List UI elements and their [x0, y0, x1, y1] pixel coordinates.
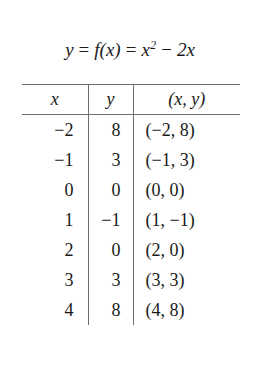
cell-x: −2: [22, 115, 88, 146]
table-header-row: x y (x, y): [22, 84, 240, 115]
value-table: x y (x, y) −2 8 (−2, 8) −1 3 (−1, 3) 0: [22, 84, 240, 325]
cell-y: 8: [88, 295, 133, 325]
cell-y: 3: [88, 145, 133, 175]
table-row: 3 3 (3, 3): [22, 265, 240, 295]
cell-x: 4: [22, 295, 88, 325]
equation-term-exponent: 2: [150, 39, 156, 52]
function-equation: y=f(x)=x2−2x: [0, 40, 260, 59]
table-of-values: x y (x, y) −2 8 (−2, 8) −1 3 (−1, 3) 0: [22, 84, 240, 325]
cell-xy: (3, 3): [133, 265, 240, 295]
cell-x: 0: [22, 175, 88, 205]
equation-operator: −: [161, 39, 172, 60]
cell-xy: (−1, 3): [133, 145, 240, 175]
cell-x: 1: [22, 205, 88, 235]
cell-x: 2: [22, 235, 88, 265]
table-top-rule: [22, 84, 240, 85]
table-row: −2 8 (−2, 8): [22, 115, 240, 146]
table-header: x y (x, y): [22, 84, 240, 115]
cell-xy: (0, 0): [133, 175, 240, 205]
cell-y: 3: [88, 265, 133, 295]
table-row: −1 3 (−1, 3): [22, 145, 240, 175]
cell-xy: (4, 8): [133, 295, 240, 325]
equation-equals-second: =: [126, 39, 137, 60]
equation-second-term: 2x: [177, 39, 195, 60]
equation-equals-first: =: [79, 39, 90, 60]
equation-lhs: y: [65, 39, 73, 60]
document-page: y=f(x)=x2−2x x y (x, y) −2 8 (−2, 8): [0, 0, 260, 374]
table-body: −2 8 (−2, 8) −1 3 (−1, 3) 0 0 (0, 0) 1 −…: [22, 115, 240, 326]
cell-x: 3: [22, 265, 88, 295]
table-row: 1 −1 (1, −1): [22, 205, 240, 235]
column-header-y: y: [88, 84, 133, 115]
cell-xy: (2, 0): [133, 235, 240, 265]
cell-y: 0: [88, 235, 133, 265]
equation-term-base: x: [141, 39, 149, 60]
cell-x: −1: [22, 145, 88, 175]
cell-xy: (−2, 8): [133, 115, 240, 146]
table-row: 2 0 (2, 0): [22, 235, 240, 265]
equation-function-notation: f(x): [94, 39, 120, 60]
cell-y: −1: [88, 205, 133, 235]
table-row: 0 0 (0, 0): [22, 175, 240, 205]
column-header-x: x: [22, 84, 88, 115]
cell-xy: (1, −1): [133, 205, 240, 235]
column-header-xy: (x, y): [133, 84, 240, 115]
cell-y: 0: [88, 175, 133, 205]
cell-y: 8: [88, 115, 133, 146]
table-row: 4 8 (4, 8): [22, 295, 240, 325]
